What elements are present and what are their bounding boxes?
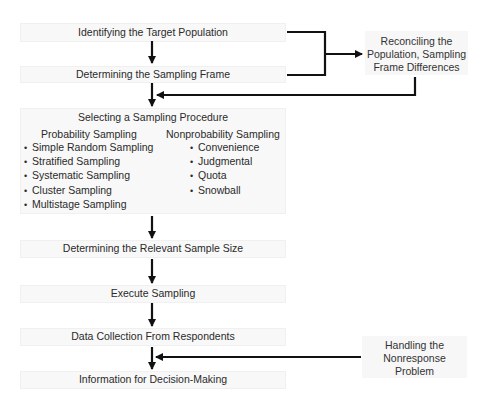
step-label: Execute Sampling xyxy=(20,287,286,300)
step-sampling-frame: Determining the Sampling Frame xyxy=(20,66,286,83)
nonprobability-sampling-title: Nonprobability Sampling xyxy=(166,128,280,141)
list-item: Convenience xyxy=(190,141,259,155)
step-data-collection: Data Collection From Respondents xyxy=(20,328,286,346)
step-label: Information for Decision-Making xyxy=(20,373,286,386)
bracket-connector xyxy=(287,32,325,75)
step-label: Identifying the Target Population xyxy=(20,26,286,39)
step-label: Determining the Sampling Frame xyxy=(20,68,286,81)
nonresponse-line: Handling the xyxy=(362,339,467,352)
reconcile-line: Population, Sampling xyxy=(365,48,468,61)
step-target-population: Identifying the Target Population xyxy=(20,23,286,42)
step-sampling-procedure: Selecting a Sampling Procedure Probabili… xyxy=(20,108,286,214)
list-item: Snowball xyxy=(190,184,259,198)
reconcile-differences-box: Reconciling the Population, Sampling Fra… xyxy=(365,31,468,75)
nonresponse-line: Nonresponse xyxy=(362,352,467,365)
list-item: Simple Random Sampling xyxy=(24,141,153,155)
probability-sampling-title: Probability Sampling xyxy=(41,128,137,141)
step-execute-sampling: Execute Sampling xyxy=(20,285,286,303)
reconcile-line: Frame Differences xyxy=(365,61,468,74)
probability-sampling-list: Simple Random Sampling Stratified Sampli… xyxy=(24,141,153,212)
reconcile-line: Reconciling the xyxy=(365,35,468,48)
list-item: Judgmental xyxy=(190,155,259,169)
step-decision-information: Information for Decision-Making xyxy=(20,371,286,389)
step-sample-size: Determining the Relevant Sample Size xyxy=(20,240,286,258)
step-label: Data Collection From Respondents xyxy=(20,330,286,343)
list-item: Stratified Sampling xyxy=(24,155,153,169)
list-item: Cluster Sampling xyxy=(24,184,153,198)
list-item: Systematic Sampling xyxy=(24,169,153,183)
nonresponse-line: Problem xyxy=(362,365,467,378)
nonprobability-sampling-list: Convenience Judgmental Quota Snowball xyxy=(190,141,259,198)
list-item: Quota xyxy=(190,169,259,183)
step-label: Determining the Relevant Sample Size xyxy=(20,242,286,255)
step-label: Selecting a Sampling Procedure xyxy=(20,111,286,124)
list-item: Multistage Sampling xyxy=(24,198,153,212)
nonresponse-problem-box: Handling the Nonresponse Problem xyxy=(362,336,467,378)
